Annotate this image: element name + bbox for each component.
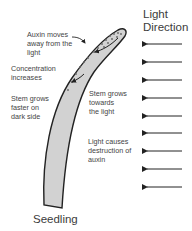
seedling-caption: Seedling xyxy=(33,213,78,225)
phototropism-diagram: Light Direction Auxin moves away from th… xyxy=(0,0,192,231)
label-grows-towards: Stem grows towards the light xyxy=(89,89,127,116)
light-direction-title: Light Direction xyxy=(143,8,188,34)
label-concentration: Concentration increases xyxy=(11,64,56,82)
label-grows-faster: Stem grows faster on dark side xyxy=(11,94,49,121)
light-arrows xyxy=(147,44,182,187)
label-light-destroys: Light causes destruction of auxin xyxy=(88,137,131,164)
label-auxin-moves: Auxin moves away from the light xyxy=(27,30,72,57)
